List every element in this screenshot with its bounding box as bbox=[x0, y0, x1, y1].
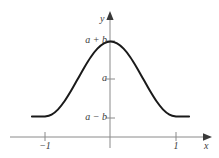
x-tick-label-neg-one: −1 bbox=[38, 141, 52, 151]
y-axis-label: y bbox=[100, 14, 104, 24]
plot-canvas bbox=[0, 0, 219, 158]
y-axis-arrowhead bbox=[106, 11, 113, 20]
y-tick-label-a: a bbox=[102, 73, 107, 83]
x-tick-label-one: 1 bbox=[169, 141, 183, 151]
y-tick-label-a-plus-b: a + b bbox=[85, 35, 107, 45]
x-axis-label: x bbox=[204, 141, 208, 151]
graph-figure: a + b a a − b −1 1 y x bbox=[0, 0, 219, 158]
y-tick-label-a-minus-b: a − b bbox=[85, 112, 107, 122]
